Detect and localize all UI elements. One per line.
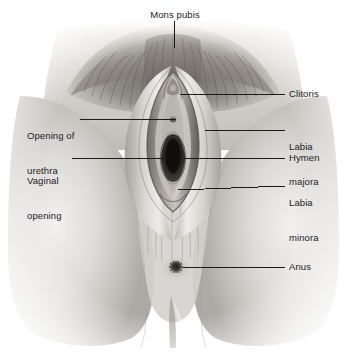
anatomy-figure: Mons pubis Clitoris Labia majora Hymen L… [0,0,347,361]
anatomy-illustration [0,0,347,361]
